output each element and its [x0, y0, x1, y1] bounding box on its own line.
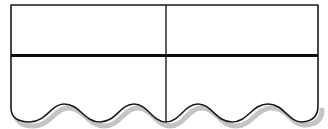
wavy-table-diagram — [0, 0, 328, 129]
table-body — [11, 5, 318, 122]
